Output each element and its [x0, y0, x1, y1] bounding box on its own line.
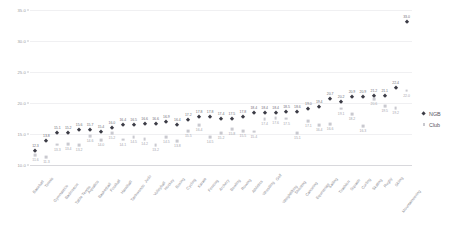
data-point-club	[110, 131, 113, 134]
data-point-club	[231, 128, 234, 131]
data-label-ngb: 16.4	[174, 118, 181, 122]
data-point-ngb	[120, 123, 125, 128]
data-point-ngb	[186, 118, 191, 123]
data-point-ngb	[175, 123, 180, 128]
data-label-ngb: 18.4	[272, 106, 279, 110]
data-label-ngb: 17.8	[240, 110, 247, 114]
data-point-club	[241, 129, 244, 132]
data-point-club	[405, 89, 408, 92]
data-point-club	[154, 144, 157, 147]
data-point-ngb	[360, 95, 365, 100]
data-label-club: 14.5	[207, 140, 214, 144]
data-point-ngb	[44, 139, 49, 144]
data-label-club: 13.8	[174, 144, 181, 148]
data-label-ngb: 20.9	[360, 90, 367, 94]
data-point-club	[361, 125, 364, 128]
y-axis-tick-mark	[27, 72, 29, 73]
data-point-ngb	[371, 93, 376, 98]
data-point-club	[329, 123, 332, 126]
data-label-club: 14.0	[98, 143, 105, 147]
data-label-club: 20.6	[370, 102, 377, 106]
chart-legend: NGB Club	[420, 108, 460, 130]
data-label-club: 18.2	[349, 117, 356, 121]
gridline	[30, 10, 412, 11]
data-label-club: 14.5	[163, 140, 170, 144]
data-point-ngb	[317, 104, 322, 109]
data-label-club: 15.5	[240, 134, 247, 138]
data-label-ngb: 16.9	[163, 115, 170, 119]
data-label-club: 17.5	[283, 122, 290, 126]
data-point-club	[296, 132, 299, 135]
data-label-ngb: 19.0	[305, 102, 312, 106]
data-label-ngb: 17.8	[196, 110, 203, 114]
data-label-ngb: 33.0	[403, 15, 410, 19]
data-point-club	[263, 118, 266, 121]
data-label-club: 15.2	[218, 136, 225, 140]
data-label-club: 15.8	[229, 132, 236, 136]
data-label-ngb: 15.1	[54, 126, 61, 130]
data-point-ngb	[262, 111, 267, 116]
data-point-ngb	[164, 120, 169, 125]
y-axis-tick-label: 35.0	[17, 8, 26, 13]
data-point-club	[89, 135, 92, 138]
data-point-ngb	[273, 111, 278, 116]
data-point-club	[220, 131, 223, 134]
data-label-ngb: 15.7	[87, 123, 94, 127]
data-point-ngb	[197, 114, 202, 119]
data-label-ngb: 17.8	[207, 110, 214, 114]
data-point-ngb	[382, 94, 387, 99]
x-axis-line	[30, 165, 412, 166]
data-label-ngb: 20.9	[349, 90, 356, 94]
data-label-ngb: 16.0	[109, 121, 116, 125]
data-label-ngb: 17.2	[185, 113, 192, 117]
legend-item-ngb[interactable]: NGB	[420, 108, 460, 119]
x-axis-tick-label: Handball	[129, 167, 143, 183]
data-point-club	[67, 143, 70, 146]
data-label-ngb: 15.6	[76, 123, 83, 127]
data-point-ngb	[328, 96, 333, 101]
data-point-club	[187, 129, 190, 132]
x-axis-tick-label: Mountaineering	[417, 167, 438, 192]
data-point-ngb	[251, 111, 256, 116]
y-axis-tick-mark	[27, 134, 29, 135]
data-label-ngb: 16.4	[119, 118, 126, 122]
data-point-ngb	[208, 114, 213, 119]
data-label-ngb: 18.6	[294, 105, 301, 109]
data-label-club: 19.2	[392, 111, 399, 115]
data-label-club: 15.1	[294, 136, 301, 140]
data-point-ngb	[240, 114, 245, 119]
data-label-ngb: 16.6	[152, 117, 159, 121]
data-label-ngb: 16.5	[130, 118, 137, 122]
data-label-club: 14.5	[130, 140, 137, 144]
data-point-ngb	[230, 116, 235, 121]
data-point-ngb	[404, 20, 409, 25]
data-point-ngb	[393, 86, 398, 91]
data-label-club: 19.1	[338, 112, 345, 116]
y-axis-tick-label: 20.0	[17, 101, 26, 106]
data-label-ngb: 16.6	[141, 117, 148, 121]
data-label-club: 14.2	[141, 142, 148, 146]
y-axis-tick-mark	[27, 165, 29, 166]
data-label-club: 14.1	[119, 143, 126, 147]
data-label-ngb: 20.7	[327, 92, 334, 96]
data-point-ngb	[33, 148, 38, 153]
gridline	[30, 103, 412, 104]
legend-item-club[interactable]: Club	[420, 119, 460, 130]
data-point-club	[351, 113, 354, 116]
data-label-ngb: 15.2	[65, 126, 72, 130]
y-axis-tick-mark	[27, 10, 29, 11]
data-point-ngb	[153, 122, 158, 127]
data-label-club: 17.4	[261, 122, 268, 126]
data-point-club	[34, 154, 37, 157]
y-axis-tick-label: 10.0	[17, 163, 26, 168]
data-point-club	[45, 156, 48, 159]
data-point-club	[252, 130, 255, 133]
legend-label-club: Club	[429, 122, 440, 128]
data-point-ngb	[284, 110, 289, 115]
data-label-ngb: 12.3	[32, 144, 39, 148]
data-label-club: 11.3	[43, 160, 49, 164]
data-point-club	[56, 143, 59, 146]
data-label-ngb: 13.8	[43, 134, 50, 138]
data-label-club: 13.2	[76, 148, 83, 152]
data-label-club: 15.4	[250, 135, 257, 139]
